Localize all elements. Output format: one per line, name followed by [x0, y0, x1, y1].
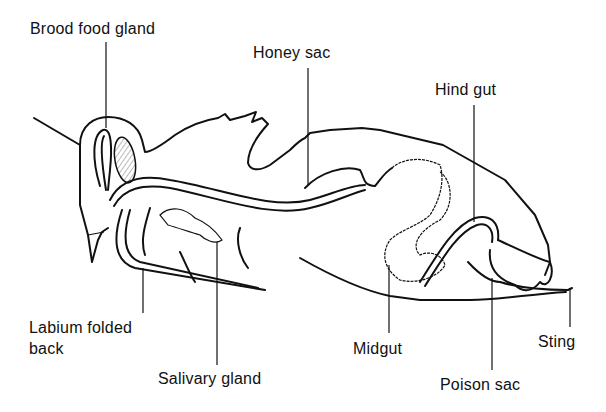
label-sting: Sting [538, 333, 575, 351]
thorax-lower [143, 208, 248, 282]
oesophagus [110, 178, 365, 203]
label-brood-food-gland: Brood food gland [30, 20, 155, 38]
label-poison-sac: Poison sac [440, 376, 520, 394]
honey-sac-shape [305, 168, 392, 188]
bee-anatomy-diagram: Brood food gland Honey sac Hind gut Labi… [0, 0, 606, 412]
poison-sac-shape [468, 262, 572, 290]
head-outline [80, 112, 550, 275]
brain-hatched [111, 136, 139, 185]
label-honey-sac: Honey sac [253, 44, 330, 62]
label-labium-line1: Labium folded [29, 319, 132, 337]
antenna [34, 118, 80, 145]
abdomen-underside [300, 258, 440, 300]
label-midgut: Midgut [353, 340, 402, 358]
label-hind-gut: Hind gut [435, 81, 496, 99]
hind-gut-tube [420, 217, 498, 282]
labium-shape [116, 210, 265, 290]
label-labium-line2: back [29, 340, 64, 358]
salivary-gland-shape [160, 209, 222, 242]
label-salivary-gland: Salivary gland [158, 370, 261, 388]
